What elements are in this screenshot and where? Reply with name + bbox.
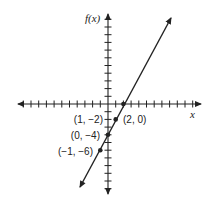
y-axis-label: f(x) xyxy=(85,12,101,25)
point-2-0 xyxy=(121,102,126,107)
point-1-neg2 xyxy=(113,117,118,122)
x-axis-label: x xyxy=(189,108,195,120)
label-point-neg1-neg6: (−1, −6) xyxy=(58,146,93,157)
x-axis xyxy=(18,101,201,108)
point-neg1-neg6 xyxy=(98,148,103,153)
function-line xyxy=(80,18,171,187)
label-point-2-0: (2, 0) xyxy=(123,114,146,125)
label-point-0-neg4: (0, −4) xyxy=(71,130,100,141)
point-0-neg4 xyxy=(106,133,111,138)
coordinate-plane: f(x) x (2, 0) (1, −2) (0, −4) (−1, −6) xyxy=(0,0,209,204)
label-point-1-neg2: (1, −2) xyxy=(74,114,103,125)
